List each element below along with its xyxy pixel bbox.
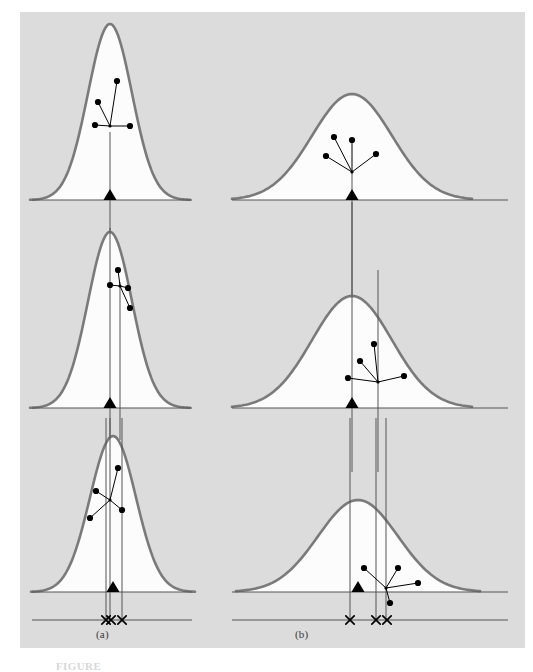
sample-point-3 xyxy=(119,507,125,513)
sample-point-0 xyxy=(115,465,121,471)
distribution-panel-1-1 xyxy=(232,202,508,472)
sample-point-3 xyxy=(127,305,133,311)
sample-point-1 xyxy=(395,565,401,571)
sample-point-0 xyxy=(114,78,120,84)
sample-cluster-hub xyxy=(376,380,379,383)
figure-root: (a) (b) FIGURE xyxy=(0,0,533,672)
sample-cluster-hub xyxy=(118,284,121,287)
distribution-column-a xyxy=(30,24,195,624)
sample-point-2 xyxy=(415,580,421,586)
sample-point-0 xyxy=(361,565,367,571)
distribution-panel-1-0 xyxy=(232,94,508,302)
distribution-panel-0-2 xyxy=(31,418,195,620)
sample-point-1 xyxy=(107,282,113,288)
distribution-panel-0-1 xyxy=(30,228,192,440)
subfigure-label-a: (a) xyxy=(96,628,109,640)
sample-cluster-hub xyxy=(350,170,353,173)
sample-point-0 xyxy=(331,134,337,140)
sample-cluster-hub xyxy=(108,124,111,127)
distribution-curve-fill xyxy=(236,500,480,592)
sample-point-3 xyxy=(387,600,393,606)
subfigure-label-b: (b) xyxy=(295,628,308,640)
sample-point-2 xyxy=(345,375,351,381)
sample-point-3 xyxy=(401,373,407,379)
sample-point-3 xyxy=(127,123,133,129)
sample-cluster-hub xyxy=(108,498,111,501)
figure-canvas xyxy=(0,0,533,672)
sample-point-3 xyxy=(373,151,379,157)
sample-point-1 xyxy=(357,358,363,364)
sample-point-2 xyxy=(323,153,329,159)
sample-point-0 xyxy=(371,341,377,347)
distribution-panel-1-2 xyxy=(232,418,508,620)
sample-point-2 xyxy=(92,122,98,128)
sample-point-1 xyxy=(349,137,355,143)
distribution-panel-0-0 xyxy=(30,24,192,240)
sample-point-2 xyxy=(125,285,131,291)
sample-point-0 xyxy=(115,267,121,273)
distribution-curve-fill xyxy=(31,436,195,592)
plot-layer xyxy=(30,24,508,624)
figure-number-label: FIGURE xyxy=(56,660,101,672)
sample-point-1 xyxy=(93,488,99,494)
sample-point-1 xyxy=(95,99,101,105)
distribution-column-b xyxy=(232,94,508,624)
sample-point-2 xyxy=(87,515,93,521)
sample-cluster-hub xyxy=(384,586,387,589)
